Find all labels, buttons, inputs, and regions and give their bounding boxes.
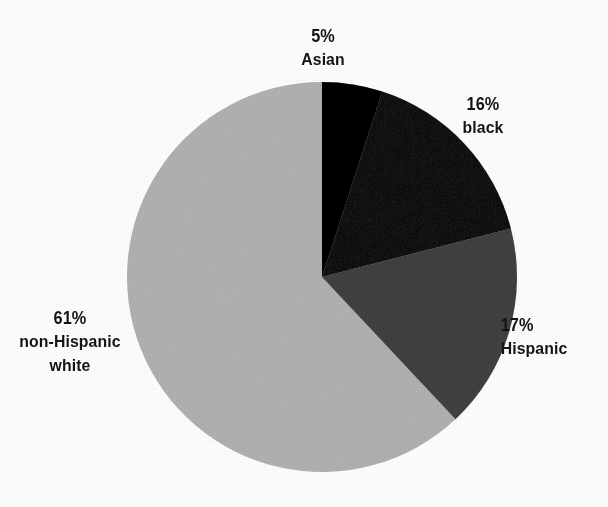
pie-label-non-hispanic-white: 61% non-Hispanic white: [10, 306, 129, 377]
pie-label-white-category-line1: non-Hispanic: [10, 330, 129, 353]
pie-label-black-category: black: [440, 116, 526, 139]
pie-label-asian: 5% Asian: [284, 24, 362, 72]
pie-label-asian-category: Asian: [284, 48, 362, 71]
pie-label-black-percent: 16%: [440, 92, 526, 116]
pie-label-white-percent: 61%: [10, 306, 129, 330]
pie-chart-graphic: [0, 0, 608, 507]
pie-chart-figure: 5% Asian 16% black 17% Hispanic 61% non-…: [0, 0, 608, 507]
pie-label-asian-percent: 5%: [284, 24, 362, 48]
pie-label-hispanic: 17% Hispanic: [501, 313, 598, 361]
pie-label-hispanic-percent: 17%: [501, 313, 598, 337]
pie-label-hispanic-category: Hispanic: [501, 337, 598, 360]
pie-label-white-category-line2: white: [10, 354, 129, 377]
pie-label-black: 16% black: [440, 92, 526, 140]
